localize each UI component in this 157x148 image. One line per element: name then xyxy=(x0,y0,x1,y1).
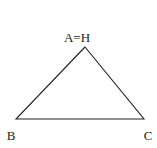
vertex-label-c: C xyxy=(144,128,153,143)
vertex-label-b: B xyxy=(7,128,16,143)
triangle-abc xyxy=(16,47,144,119)
triangle-diagram: A=H B C xyxy=(0,0,157,148)
vertex-label-a: A=H xyxy=(64,30,90,45)
